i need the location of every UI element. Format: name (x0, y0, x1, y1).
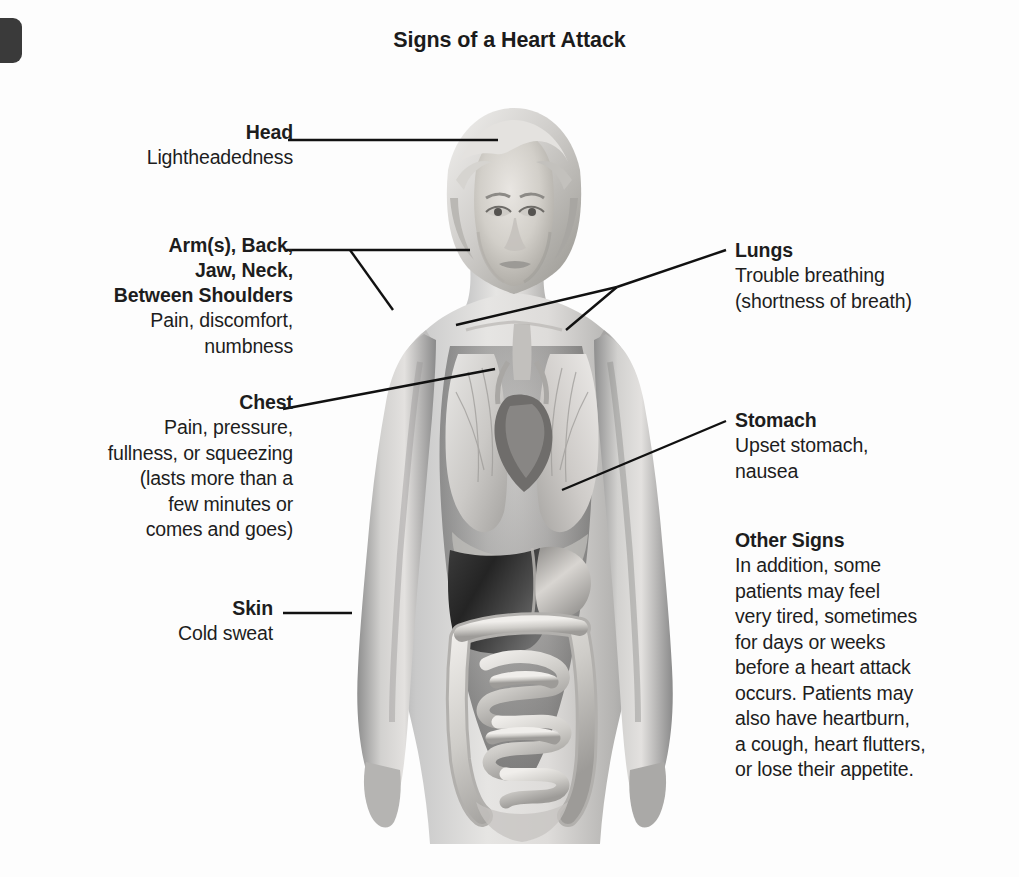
callout-other-body-line9: or lose their appetite. (735, 757, 1013, 783)
callout-other-title: Other Signs (735, 528, 1013, 553)
anatomical-figure (300, 62, 730, 862)
callout-arms-title-line2: Jaw, Neck, (8, 258, 293, 283)
callout-chest: Chest Pain, pressure, fullness, or squee… (8, 390, 293, 543)
callout-other-body-line4: for days or weeks (735, 630, 1013, 656)
callout-stomach-body-line1: Upset stomach, (735, 433, 1010, 459)
callout-lungs: Lungs Trouble breathing (shortness of br… (735, 238, 1010, 314)
callout-stomach-body-line2: nausea (735, 459, 1010, 485)
callout-lungs-body-line2: (shortness of breath) (735, 289, 1010, 315)
heart-attack-signs-poster: Signs of a Heart Attack (0, 0, 1019, 877)
callout-arms-back-jaw-neck: Arm(s), Back, Jaw, Neck, Between Shoulde… (8, 233, 293, 359)
callout-other-body-line6: occurs. Patients may (735, 681, 1013, 707)
callout-other-body-line3: very tired, sometimes (735, 604, 1013, 630)
callout-arms-title-line3: Between Shoulders (8, 283, 293, 308)
callout-head: Head Lightheadedness (18, 120, 293, 171)
callout-chest-body-line4: few minutes or (8, 492, 293, 518)
callout-chest-title: Chest (8, 390, 293, 415)
callout-chest-body-line3: (lasts more than a (8, 466, 293, 492)
callout-stomach: Stomach Upset stomach, nausea (735, 408, 1010, 484)
callout-head-body: Lightheadedness (18, 145, 293, 171)
page-title: Signs of a Heart Attack (0, 28, 1019, 53)
callout-chest-body-line2: fullness, or squeezing (8, 441, 293, 467)
callout-other-body-line2: patients may feel (735, 579, 1013, 605)
callout-skin: Skin Cold sweat (18, 596, 273, 647)
callout-head-title: Head (18, 120, 293, 145)
callout-skin-body: Cold sweat (18, 621, 273, 647)
callout-arms-title-line1: Arm(s), Back, (8, 233, 293, 258)
callout-other-body-line8: a cough, heart flutters, (735, 732, 1013, 758)
callout-arms-body-line1: Pain, discomfort, (8, 308, 293, 334)
callout-chest-body-line1: Pain, pressure, (8, 415, 293, 441)
callout-lungs-title: Lungs (735, 238, 1010, 263)
callout-other-body-line5: before a heart attack (735, 655, 1013, 681)
callout-stomach-title: Stomach (735, 408, 1010, 433)
callout-other-body-line7: also have heartburn, (735, 706, 1013, 732)
callout-arms-body-line2: numbness (8, 334, 293, 360)
callout-skin-title: Skin (18, 596, 273, 621)
callout-chest-body-line5: comes and goes) (8, 517, 293, 543)
callout-lungs-body-line1: Trouble breathing (735, 263, 1010, 289)
callout-other-body-line1: In addition, some (735, 553, 1013, 579)
callout-other-signs: Other Signs In addition, some patients m… (735, 528, 1013, 783)
